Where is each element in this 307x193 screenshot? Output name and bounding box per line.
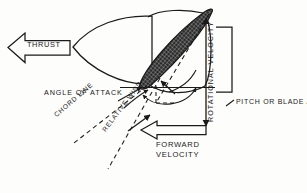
pitch-bracket [216,27,232,92]
spinner-nose-cone [73,16,152,84]
rotational-velocity-label: ROTATIONAL VELOCITY [206,21,216,122]
forward-velocity-label: FORWARD VELOCITY [156,140,200,159]
pitch-blade-angle-label: PITCH OR BLADE ANGLE [236,97,307,107]
forward-line: FORWARD [156,140,200,150]
pitch-leader-line [226,100,234,106]
hub-top-curve [148,10,203,17]
pitch-angle-arc [143,88,196,104]
hub-inner-curve [169,70,196,92]
blade-angle-line: BLADE ANGLE [278,98,307,105]
velocity-line: VELOCITY [156,150,200,160]
thrust-label: THRUST [27,40,61,50]
propeller-blade-diagram: THRUST ANGLE OF ATTACK CHORD LINE RELATI… [0,0,307,193]
forward-velocity-block-arrow [141,121,206,139]
pitch-or-line: PITCH OR [236,98,275,105]
